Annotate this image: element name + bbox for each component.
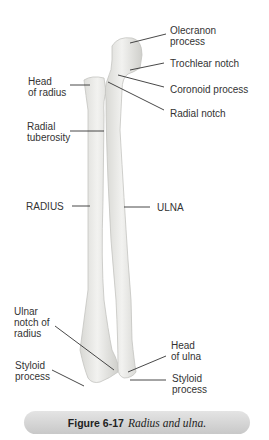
caption-number: Figure 6-17 bbox=[68, 417, 124, 429]
label-trochlear-notch: Trochlear notch bbox=[170, 58, 239, 69]
label-styloid-process-radius: Styloid process bbox=[15, 360, 50, 382]
label-head-of-ulna: Head of ulna bbox=[171, 340, 201, 362]
caption-title: Radius and ulna. bbox=[128, 417, 206, 429]
ulna-bone bbox=[105, 38, 142, 378]
figure-caption: Figure 6-17 Radius and ulna. bbox=[24, 411, 250, 434]
label-head-of-radius: Head of radius bbox=[28, 76, 66, 98]
label-olecranon-process: Olecranon process bbox=[170, 25, 216, 47]
label-ulna: ULNA bbox=[157, 202, 184, 213]
radius-ulna-illustration: Olecranon process Trochlear notch Corono… bbox=[0, 0, 269, 400]
label-styloid-process-ulna: Styloid process bbox=[172, 373, 207, 395]
label-ulnar-notch-of-radius: Ulnar notch of radius bbox=[14, 306, 50, 339]
label-radius: RADIUS bbox=[26, 201, 64, 212]
label-coronoid-process: Coronoid process bbox=[170, 84, 248, 95]
label-radial-tuberosity: Radial tuberosity bbox=[27, 121, 70, 143]
label-radial-notch: Radial notch bbox=[170, 108, 226, 119]
